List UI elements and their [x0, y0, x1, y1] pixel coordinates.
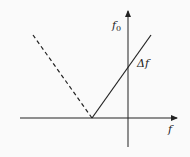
- delta-f-label: Δf: [136, 57, 151, 70]
- dashed-branch-line: [33, 35, 92, 118]
- solid-branch-line: [92, 35, 151, 118]
- x-axis-label: f: [167, 123, 174, 136]
- y-axis-label: f0: [111, 19, 121, 33]
- diagram-canvas: f0 Δf f: [0, 0, 190, 157]
